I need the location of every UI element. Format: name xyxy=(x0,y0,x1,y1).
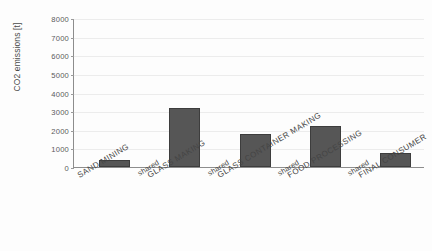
plot-area: 010002000300040005000600070008000 xyxy=(73,19,424,168)
y-tick-label: 7000 xyxy=(51,33,69,42)
y-axis-title: CO2 emissions [t] xyxy=(12,0,22,132)
bar-series xyxy=(74,19,424,167)
bar xyxy=(380,153,411,167)
y-tick-label: 5000 xyxy=(51,70,69,79)
bar xyxy=(310,126,341,167)
bar xyxy=(169,108,200,167)
y-tick-label: 6000 xyxy=(51,52,69,61)
y-tick-label: 1000 xyxy=(51,145,69,154)
y-tick-label: 4000 xyxy=(51,89,69,98)
bar-chart-figure: CO2 emissions [t] 0100020003000400050006… xyxy=(0,0,432,251)
bar xyxy=(240,134,271,167)
y-tick-label: 2000 xyxy=(51,126,69,135)
bar xyxy=(99,160,130,167)
y-tick-label: 8000 xyxy=(51,15,69,24)
y-tick-label: 0 xyxy=(65,164,69,173)
y-tick-mark xyxy=(71,168,74,169)
y-tick-label: 3000 xyxy=(51,108,69,117)
